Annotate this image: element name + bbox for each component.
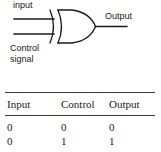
- logic-gate-diagram: input Output Control signal: [0, 0, 161, 88]
- input-label: input: [13, 0, 33, 11]
- table-header-row: Input Control Output: [0, 94, 161, 115]
- table-row: 0 0 0: [0, 115, 161, 134]
- table-row: 0 1 1: [0, 134, 161, 148]
- cell-control: 1: [61, 134, 109, 148]
- gate-top-curve: [58, 10, 96, 27]
- truth-table-grid: Input Control Output 0 0 0 0 1 1: [0, 94, 161, 148]
- gate-back-arc: [58, 10, 62, 43]
- cell-input: 0: [0, 134, 61, 148]
- column-header-input: Input: [0, 94, 61, 115]
- column-header-control: Control: [61, 94, 109, 115]
- gate-bottom-curve: [58, 27, 96, 44]
- truth-table: Input Control Output 0 0 0 0 1 1: [0, 88, 161, 152]
- figure-root: input Output Control signal Input Contro…: [0, 0, 161, 152]
- xor-extra-arc: [50, 10, 54, 43]
- control-signal-label: Control signal: [10, 43, 39, 65]
- cell-input: 0: [0, 115, 61, 134]
- table-top-rule: [5, 92, 155, 93]
- output-label: Output: [105, 11, 132, 22]
- cell-output: 1: [109, 134, 161, 148]
- column-header-output: Output: [109, 94, 161, 115]
- control-signal-label-line2: signal: [10, 54, 39, 65]
- control-signal-label-line1: Control: [10, 43, 39, 53]
- cell-control: 0: [61, 115, 109, 134]
- cell-output: 0: [109, 115, 161, 134]
